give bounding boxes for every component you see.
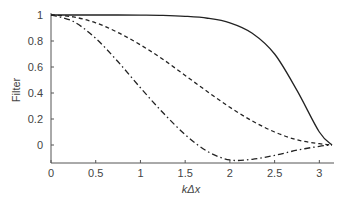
x-tick-label: 0.5: [88, 167, 103, 179]
x-tick-label: 2: [227, 167, 233, 179]
y-tick-label: 0: [37, 139, 43, 151]
x-tick-label: 0: [48, 167, 54, 179]
y-tick-label: 0.8: [28, 35, 43, 47]
x-tick-label: 1: [137, 167, 143, 179]
curves: [51, 15, 332, 161]
x-tick-label: 3: [316, 167, 322, 179]
y-axis-label: Filter: [10, 77, 22, 102]
y-tick-label: 0.4: [28, 87, 43, 99]
curve-dashed: [51, 15, 332, 145]
x-tick-label: 1.5: [178, 167, 193, 179]
axes: 00.511.522.5300.20.40.60.81: [28, 9, 334, 179]
filter-chart: 00.511.522.5300.20.40.60.81 Filter kΔx: [0, 0, 351, 200]
x-tick-label: 2.5: [267, 167, 282, 179]
y-tick-label: 1: [37, 9, 43, 21]
x-axis-label: kΔx: [182, 183, 201, 195]
curve-dash-dot: [51, 15, 332, 161]
y-tick-label: 0.6: [28, 61, 43, 73]
y-tick-label: 0.2: [28, 113, 43, 125]
